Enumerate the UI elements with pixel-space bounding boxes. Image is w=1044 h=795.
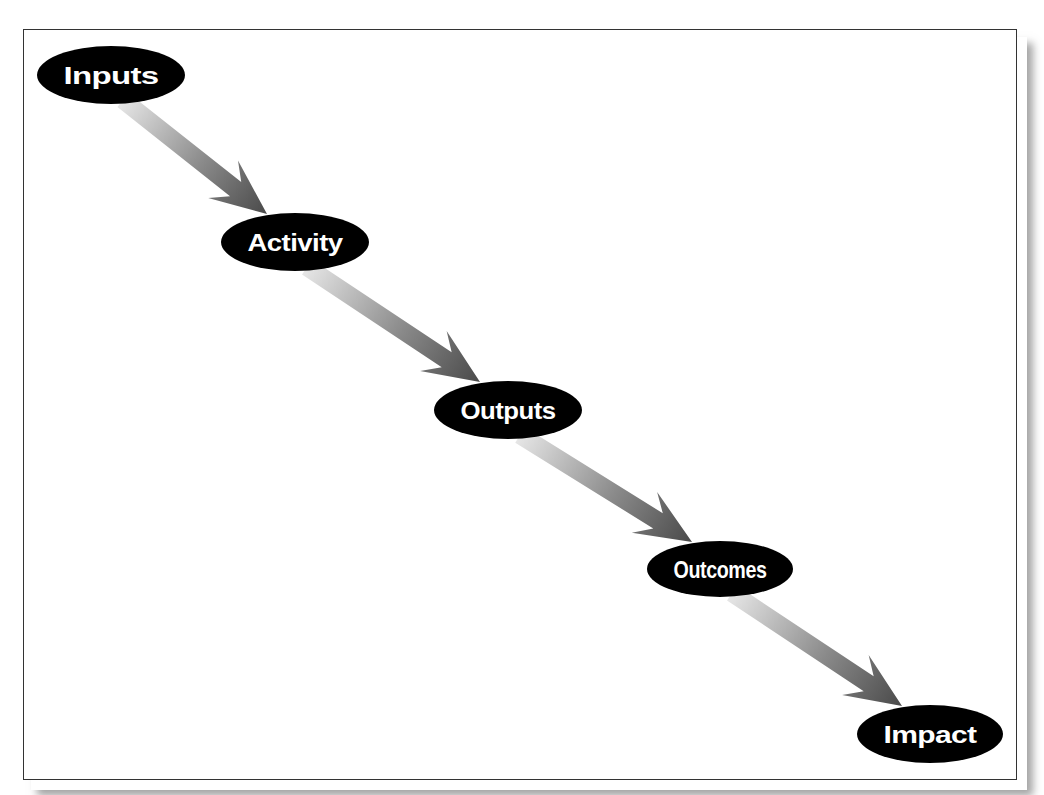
arrow-icon [507, 415, 704, 563]
node-label: Outputs [461, 397, 556, 424]
node-label: Activity [248, 229, 344, 256]
node-activity: Activity [221, 213, 369, 271]
node-outcomes: Outcomes [647, 541, 793, 597]
node-impact: Impact [857, 705, 1003, 763]
arrow-outcomes-to-impact [719, 573, 916, 726]
arrow-inputs-to-activity [108, 81, 282, 233]
node-inputs: Inputs [37, 46, 185, 104]
node-label: Outcomes [674, 556, 767, 583]
node-label: Inputs [64, 62, 159, 89]
node-label: Impact [884, 721, 978, 748]
node-outputs: Outputs [434, 381, 582, 439]
arrow-icon [294, 247, 494, 402]
flow-diagram: InputsActivityOutputsOutcomesImpact [0, 0, 1044, 795]
arrow-activity-to-outputs [294, 247, 494, 402]
arrow-icon [108, 81, 282, 233]
arrow-outputs-to-outcomes [507, 415, 704, 563]
arrow-icon [719, 573, 916, 726]
